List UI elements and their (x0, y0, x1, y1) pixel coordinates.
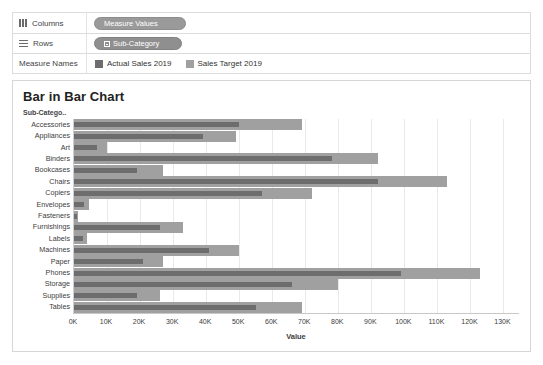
bar-row[interactable] (74, 245, 520, 256)
bar-actual-sales[interactable] (74, 191, 262, 196)
category-label: Accessories (31, 121, 70, 129)
legend-swatch-sales-target (186, 60, 194, 68)
category-label: Copiers (45, 189, 70, 197)
category-label: Paper (51, 258, 70, 266)
category-label: Supplies (42, 292, 70, 300)
measure-names-legend: Measure Names Actual Sales 2019 Sales Ta… (12, 54, 531, 74)
bar-actual-sales[interactable] (74, 293, 137, 298)
bar-actual-sales[interactable] (74, 236, 83, 241)
bar-actual-sales[interactable] (74, 156, 332, 161)
bar-row[interactable] (74, 279, 520, 290)
shelf-area: Columns Measure Values Rows Sub-Category (12, 12, 531, 74)
columns-shelf-text: Columns (32, 19, 64, 28)
category-label: Binders (46, 155, 70, 163)
category-label: Phones (46, 269, 70, 277)
category-label: Fasteners (38, 212, 70, 220)
value-axis-tick-label: 130K (494, 318, 510, 325)
legend-items: Actual Sales 2019 Sales Target 2019 (87, 59, 530, 68)
category-label: Labels (49, 235, 70, 243)
bar-row[interactable] (74, 176, 520, 187)
rows-shelf-dropzone[interactable]: Sub-Category (87, 34, 530, 53)
value-axis-tick-label: 30K (166, 318, 178, 325)
legend-swatch-actual-sales (95, 60, 103, 68)
pill-measure-values[interactable]: Measure Values (94, 17, 186, 30)
category-label: Tables (49, 303, 70, 311)
rows-shelf-text: Rows (33, 39, 53, 48)
columns-shelf-label: Columns (13, 13, 87, 33)
value-axis-tick-label: 40K (199, 318, 211, 325)
bar-actual-sales[interactable] (74, 179, 378, 184)
bar-row[interactable] (74, 211, 520, 222)
rows-grid-icon (19, 40, 28, 48)
value-axis-tick-label: 10K (100, 318, 112, 325)
bar-row[interactable] (74, 188, 520, 199)
legend-item-actual-sales[interactable]: Actual Sales 2019 (95, 59, 172, 68)
bar-row[interactable] (74, 302, 520, 313)
bar-actual-sales[interactable] (74, 259, 143, 264)
bar-row[interactable] (74, 119, 520, 130)
value-axis-tick-label: 0K (69, 318, 78, 325)
legend-label-sales-target: Sales Target 2019 (198, 59, 262, 68)
bar-row[interactable] (74, 131, 520, 142)
bar-actual-sales[interactable] (74, 282, 292, 287)
bar-actual-sales[interactable] (74, 305, 256, 310)
bar-actual-sales[interactable] (74, 122, 239, 127)
category-axis-labels: AccessoriesAppliancesArtBindersBookcases… (13, 119, 73, 313)
bar-row[interactable] (74, 142, 520, 153)
category-label: Chairs (49, 178, 70, 186)
plot-wrap: AccessoriesAppliancesArtBindersBookcases… (13, 119, 530, 351)
bar-row[interactable] (74, 199, 520, 210)
category-label: Envelopes (36, 201, 70, 209)
legend-label-actual-sales: Actual Sales 2019 (107, 59, 172, 68)
category-label: Bookcases (35, 166, 70, 174)
columns-grid-icon (19, 19, 27, 27)
value-axis-tick-label: 60K (265, 318, 277, 325)
value-axis-tick-label: 100K (395, 318, 411, 325)
columns-shelf-dropzone[interactable]: Measure Values (87, 13, 530, 33)
value-axis-tick-label: 120K (461, 318, 477, 325)
bar-actual-sales[interactable] (74, 271, 401, 276)
bar-row[interactable] (74, 290, 520, 301)
category-label: Appliances (35, 132, 70, 140)
value-axis-title: Value (73, 332, 519, 341)
bar-actual-sales[interactable] (74, 225, 160, 230)
bar-row[interactable] (74, 256, 520, 267)
plot-area (73, 119, 520, 313)
tableau-worksheet: Columns Measure Values Rows Sub-Category (0, 0, 543, 365)
legend-title: Measure Names (13, 54, 87, 73)
bar-row[interactable] (74, 268, 520, 279)
value-axis-tick-label: 70K (298, 318, 310, 325)
rows-shelf[interactable]: Rows Sub-Category (12, 33, 531, 54)
legend-item-sales-target[interactable]: Sales Target 2019 (186, 59, 262, 68)
bar-actual-sales[interactable] (74, 145, 97, 150)
bar-actual-sales[interactable] (74, 214, 77, 219)
pill-sub-category[interactable]: Sub-Category (94, 37, 182, 50)
category-label: Machines (39, 246, 70, 254)
chart-panel: Bar in Bar Chart Sub-Catego.. Accessorie… (12, 80, 531, 352)
category-label: Art (61, 144, 70, 152)
value-axis-tick-label: 110K (428, 318, 444, 325)
bar-row[interactable] (74, 165, 520, 176)
value-axis-tick-label: 80K (331, 318, 343, 325)
pill-sub-category-label: Sub-Category (113, 39, 159, 48)
bar-row[interactable] (74, 222, 520, 233)
hierarchy-icon (104, 41, 110, 47)
value-axis-tick-label: 50K (232, 318, 244, 325)
bar-row[interactable] (74, 153, 520, 164)
category-axis-header: Sub-Catego.. (23, 109, 66, 116)
bar-actual-sales[interactable] (74, 168, 137, 173)
category-label: Furnishings (33, 223, 70, 231)
columns-shelf[interactable]: Columns Measure Values (12, 12, 531, 33)
rows-shelf-label: Rows (13, 34, 87, 53)
chart-title: Bar in Bar Chart (23, 89, 124, 104)
category-label: Storage (45, 280, 70, 288)
bar-row[interactable] (74, 233, 520, 244)
bar-actual-sales[interactable] (74, 134, 203, 139)
value-axis-tick-label: 90K (364, 318, 376, 325)
value-axis: Value 0K10K20K30K40K50K60K70K80K90K100K1… (73, 313, 519, 352)
pill-measure-values-label: Measure Values (104, 19, 158, 28)
bar-actual-sales[interactable] (74, 202, 84, 207)
bar-actual-sales[interactable] (74, 248, 209, 253)
value-axis-tick-label: 20K (133, 318, 145, 325)
